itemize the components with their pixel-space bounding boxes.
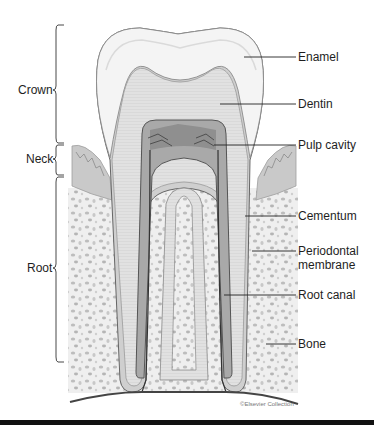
periodontal-line1: Periodontal: [298, 244, 359, 258]
inner-dentin: [160, 188, 208, 380]
label-neck: Neck: [26, 152, 53, 166]
label-dentin: Dentin: [298, 97, 333, 111]
neck-bracket: [53, 145, 64, 175]
crown-bracket: [53, 25, 64, 143]
copyright-credit: ©Elsevier Collection: [240, 401, 294, 407]
periodontal-line2: membrane: [298, 258, 359, 272]
bottom-divider: [0, 420, 374, 425]
label-root: Root: [27, 261, 52, 275]
label-pulp-cavity: Pulp cavity: [298, 138, 356, 152]
label-bone: Bone: [298, 337, 326, 351]
label-root-canal: Root canal: [298, 288, 355, 302]
root-bracket: [53, 177, 64, 362]
label-periodontal-membrane: Periodontal membrane: [298, 244, 359, 272]
label-cementum: Cementum: [298, 209, 357, 223]
label-crown: Crown: [18, 83, 53, 97]
label-enamel: Enamel: [298, 50, 339, 64]
